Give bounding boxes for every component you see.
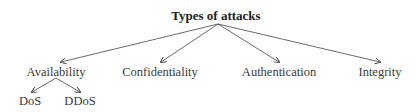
edge-root-confidentiality [161,24,218,62]
edge-root-integrity [218,24,380,62]
attack-types-tree: Types of attacks Availability Confidenti… [0,0,420,112]
edge-availability-dos [32,78,56,92]
node-confidentiality: Confidentiality [122,66,198,79]
node-authentication: Authentication [242,66,316,79]
node-dos: DoS [19,95,41,108]
node-ddos: DDoS [64,95,95,108]
edge-root-authentication [218,24,279,62]
edge-availability-ddos [56,78,80,92]
node-integrity: Integrity [358,66,401,79]
edge-root-availability [61,24,218,62]
root-node-types-of-attacks: Types of attacks [171,9,260,22]
node-availability: Availability [27,66,86,79]
